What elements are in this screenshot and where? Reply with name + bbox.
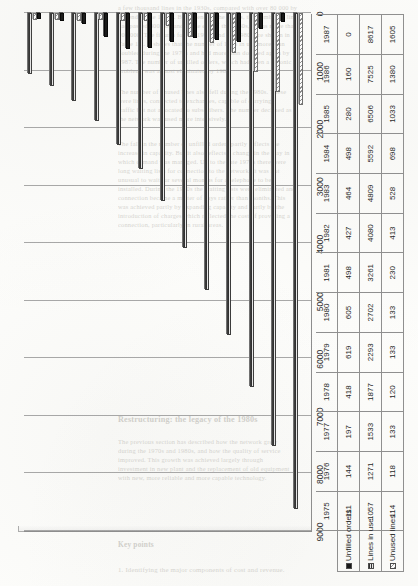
bar-group-1976 [46,14,68,531]
table-value-cell: 3261 [360,253,382,293]
bar-unused-lines-1981 [166,13,170,26]
bar-chart: 9000800070006000500040003000200010000 19… [0,0,418,586]
bar-unfilled-orders-1986 [281,13,285,22]
table-value-cell: 280 [338,94,360,134]
bar-unused-lines-1986 [276,13,280,92]
table-value-cell: 133 [382,332,404,372]
bar-group-1982 [179,14,201,531]
bar-lines-in-use-1987 [294,13,298,509]
bar-lines-in-use-1977 [72,13,76,101]
bar-unused-lines-1975 [33,13,37,20]
table-corner-cell [316,531,338,572]
table-value-cell: 498 [338,134,360,174]
table-year-header: 1977 [316,412,338,452]
table-year-header: 1981 [316,253,338,293]
bar-group-1978 [90,14,112,531]
bar-group-1986 [268,14,290,531]
table-value-cell: 118 [382,452,404,492]
legend-label: Unfilled orders [344,509,353,561]
bar-unfilled-orders-1978 [104,13,108,37]
table-row: Lines in use1057127115331877229327023261… [360,15,382,572]
bar-group-1983 [201,14,223,531]
bar-group-1975 [24,14,46,531]
table-value-cell: 133 [382,293,404,333]
legend-item-unused-lines: Unused lines [382,531,404,572]
chart-data-table: 1975197619771978197919801981198219831984… [316,14,400,572]
table-value-cell: 230 [382,253,404,293]
table-value-cell: 1033 [382,94,404,134]
hatched-light-swatch [390,563,396,569]
table-value-cell: 6506 [360,94,382,134]
bar-unfilled-orders-1979 [126,13,130,49]
legend-item-unfilled-orders: Unfilled orders [338,531,360,572]
table-value-cell: 1271 [360,452,382,492]
bar-lines-in-use-1980 [139,13,143,169]
bar-unused-lines-1984 [232,13,236,53]
table-year-header: 1986 [316,54,338,94]
bar-unused-lines-1979 [121,13,125,21]
table-value-cell: 498 [338,253,360,293]
bar-lines-in-use-1983 [205,13,209,290]
table-year-header: 1975 [316,491,338,531]
table-year-header: 1982 [316,213,338,253]
table-value-cell: 427 [338,213,360,253]
table-value-cell: 7525 [360,54,382,94]
table-value-cell: 1380 [382,54,404,94]
bar-lines-in-use-1976 [50,13,54,86]
rotated-chart-wrapper: 9000800070006000500040003000200010000 19… [0,0,418,586]
legend-label: Lines in use [366,518,375,561]
table-value-cell: 528 [382,174,404,214]
table-year-header: 1983 [316,174,338,214]
bar-unfilled-orders-1981 [170,13,174,42]
bar-lines-in-use-1984 [227,13,231,335]
table-value-cell: 2293 [360,332,382,372]
table-value-cell: 605 [338,293,360,333]
table-value-cell: 413 [382,213,404,253]
table-year-header: 1980 [316,293,338,333]
table-year-header: 1987 [316,15,338,55]
table-value-cell: 1533 [360,412,382,452]
table-value-cell: 1605 [382,15,404,55]
scanned-page: a few thousand lines in the 1930s, compa… [0,0,418,586]
bar-unused-lines-1983 [210,13,214,43]
bar-lines-in-use-1975 [28,13,32,74]
bar-group-1984 [223,14,245,531]
plot-area [24,14,312,532]
data-table: 1975197619771978197919801981198219831984… [316,14,404,572]
bar-unused-lines-1985 [254,13,258,72]
bar-group-1987 [290,14,312,531]
table-value-cell: 4080 [360,213,382,253]
bar-lines-in-use-1981 [161,13,165,201]
bar-group-1985 [246,14,268,531]
bar-unused-lines-1978 [99,13,103,20]
solid-black-swatch [346,563,352,569]
bar-unfilled-orders-1976 [60,13,64,21]
bar-unused-lines-1976 [55,13,59,20]
table-row: Unused lines1141181331201331332304135286… [382,15,404,572]
bar-unfilled-orders-1983 [215,13,219,40]
bar-group-1977 [68,14,90,531]
table-value-cell: 133 [382,412,404,452]
table-header-row: 1975197619771978197919801981198219831984… [316,15,338,572]
bar-group-1981 [157,14,179,531]
bar-lines-in-use-1978 [95,13,99,121]
bar-lines-in-use-1985 [250,13,254,387]
table-value-cell: 2702 [360,293,382,333]
bar-lines-in-use-1979 [117,13,121,145]
bar-unused-lines-1982 [188,13,192,37]
legend-item-lines-in-use: Lines in use [360,531,382,572]
bar-lines-in-use-1982 [183,13,187,248]
table-value-cell: 4809 [360,174,382,214]
striped-dark-swatch [368,563,374,569]
table-year-header: 1976 [316,452,338,492]
table-value-cell: 698 [382,134,404,174]
table-value-cell: 144 [338,452,360,492]
bar-group-1980 [135,14,157,531]
table-value-cell: 8617 [360,15,382,55]
table-year-header: 1979 [316,332,338,372]
table-year-header: 1978 [316,372,338,412]
bar-unused-lines-1980 [144,13,148,21]
bar-unfilled-orders-1977 [82,13,86,24]
table-value-cell: 619 [338,332,360,372]
bar-group-1979 [113,14,135,531]
